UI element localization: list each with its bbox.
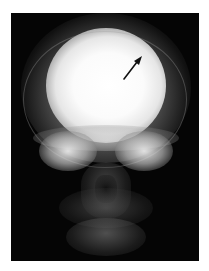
xray-image: [11, 13, 199, 261]
arrow-icon: [11, 13, 199, 261]
